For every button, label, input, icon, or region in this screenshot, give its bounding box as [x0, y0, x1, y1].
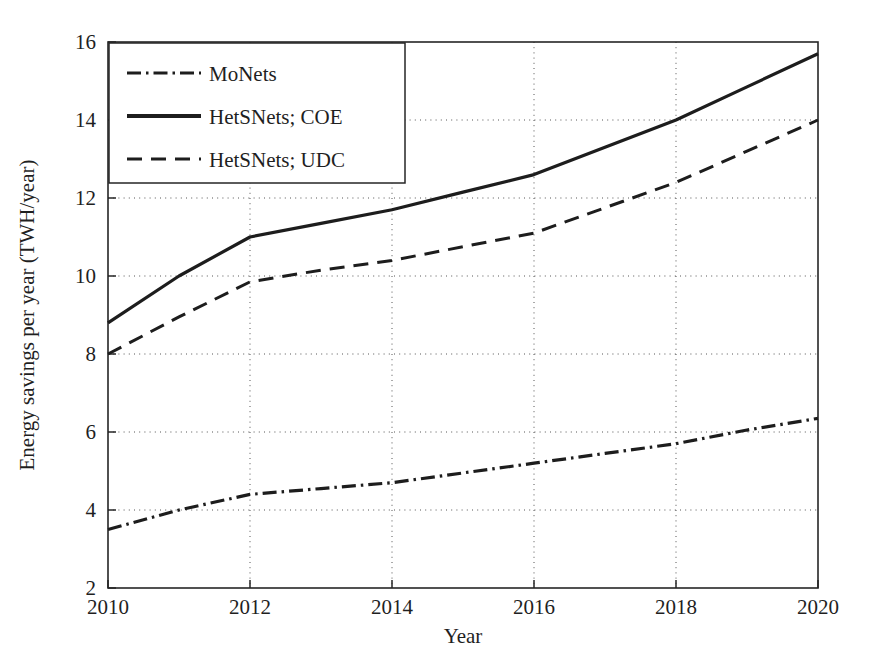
x-tick-label: 2012 [229, 595, 271, 619]
y-tick-label: 8 [86, 342, 97, 366]
y-tick-label: 10 [75, 264, 96, 288]
legend-label-monets: MoNets [209, 62, 277, 86]
x-tick-label: 2018 [655, 595, 697, 619]
y-tick-label: 6 [86, 420, 97, 444]
y-tick-label: 14 [75, 108, 97, 132]
y-axis-title: Energy savings per year (TWH/year) [15, 160, 39, 471]
line-chart: 201020122014201620182020 246810121416 Ye… [0, 0, 881, 668]
legend[interactable]: MoNetsHetSNets; COEHetSNets; UDC [109, 43, 405, 183]
y-tick-label: 2 [86, 576, 97, 600]
x-axis-title: Year [444, 624, 483, 648]
x-tick-label: 2014 [371, 595, 414, 619]
y-tick-label: 12 [75, 186, 96, 210]
x-tick-label: 2020 [797, 595, 839, 619]
x-tick-label: 2016 [513, 595, 555, 619]
y-tick-label: 16 [75, 30, 96, 54]
legend-label-hetsnets-coe: HetSNets; COE [209, 105, 343, 129]
y-tick-label: 4 [86, 498, 97, 522]
figure-root: 201020122014201620182020 246810121416 Ye… [0, 0, 881, 668]
legend-label-hetsnets-udc: HetSNets; UDC [209, 148, 345, 172]
